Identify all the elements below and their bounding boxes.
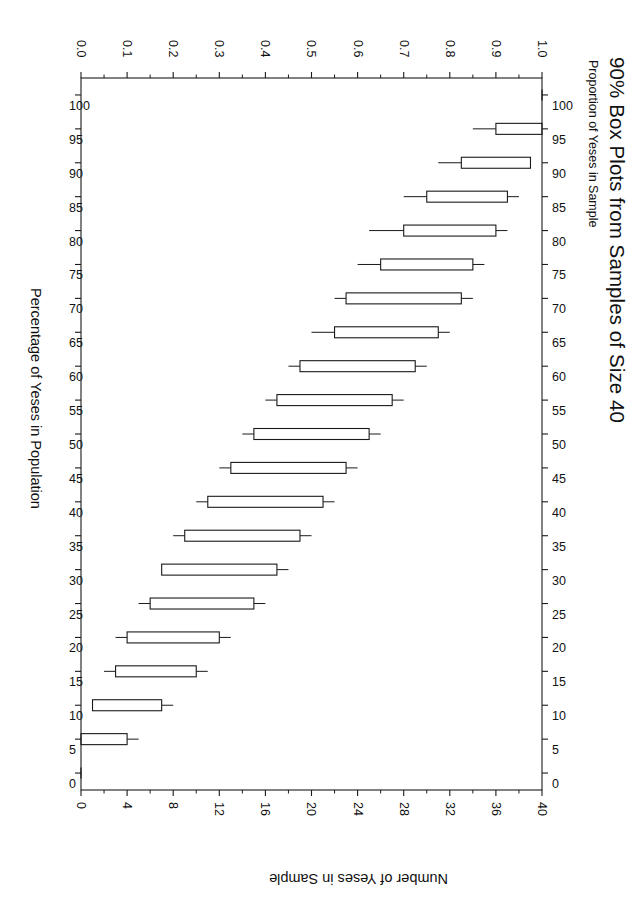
boxplot-20 [116, 632, 231, 643]
box [93, 700, 162, 711]
boxplot-15 [104, 666, 208, 677]
left-tick-label-0.9: 0.9 [489, 40, 502, 57]
boxplot-40 [196, 496, 334, 507]
left-tick-label-0.0: 0.0 [75, 40, 88, 57]
boxplot-90 [438, 157, 530, 168]
boxplot-85 [404, 191, 519, 202]
box [300, 361, 415, 372]
box [461, 157, 530, 168]
top-tick-label-95: 95 [552, 134, 566, 147]
boxplot-95 [473, 123, 542, 134]
top-tick-label-20: 20 [552, 642, 566, 655]
boxplot-65 [312, 327, 450, 338]
boxplot-80 [369, 225, 507, 236]
top-tick-label-35: 35 [552, 541, 566, 554]
box [127, 632, 219, 643]
boxplot-30 [162, 564, 289, 575]
box [381, 259, 473, 270]
right-tick-label-16: 16 [259, 802, 272, 816]
right-tick-label-8: 8 [167, 802, 180, 809]
bottom-tick-label-35: 35 [69, 541, 83, 554]
bottom-tick-label-95: 95 [69, 134, 83, 147]
boxplot-45 [219, 462, 357, 473]
bottom-tick-label-30: 30 [69, 575, 83, 588]
top-tick-label-55: 55 [552, 405, 566, 418]
right-tick-label-0: 0 [75, 802, 88, 809]
bottom-tick-label-45: 45 [69, 473, 83, 486]
boxplot-25 [139, 598, 266, 609]
plot-area [0, 0, 643, 914]
box [427, 191, 508, 202]
rotated-figure-wrapper: 90% Box Plots from Samples of Size 40 Pr… [0, 0, 643, 914]
bottom-tick-label-75: 75 [69, 269, 83, 282]
left-tick-label-0.1: 0.1 [121, 40, 134, 57]
box [496, 123, 542, 134]
right-tick-label-4: 4 [121, 802, 134, 809]
top-tick-label-5: 5 [552, 744, 559, 757]
boxplot-5 [81, 734, 139, 745]
box [208, 496, 323, 507]
box [254, 429, 369, 440]
bottom-tick-label-10: 10 [69, 710, 83, 723]
top-tick-label-0: 0 [552, 778, 559, 791]
left-tick-label-0.5: 0.5 [305, 40, 318, 57]
boxplot-70 [335, 293, 473, 304]
top-tick-label-30: 30 [552, 575, 566, 588]
boxplot-10 [93, 700, 174, 711]
top-tick-label-50: 50 [552, 439, 566, 452]
box [150, 598, 254, 609]
plot-frame [81, 78, 542, 790]
bottom-tick-label-85: 85 [69, 202, 83, 215]
right-tick-label-36: 36 [489, 802, 502, 816]
top-tick-label-45: 45 [552, 473, 566, 486]
top-tick-label-40: 40 [552, 507, 566, 520]
right-tick-label-20: 20 [305, 802, 318, 816]
bottom-tick-label-40: 40 [69, 507, 83, 520]
boxplot-50 [242, 429, 380, 440]
boxplot-35 [173, 530, 311, 541]
box [81, 734, 127, 745]
bottom-tick-label-65: 65 [69, 337, 83, 350]
bottom-tick-label-25: 25 [69, 609, 83, 622]
box [346, 293, 461, 304]
top-tick-label-75: 75 [552, 269, 566, 282]
right-tick-label-24: 24 [351, 802, 364, 816]
right-tick-label-28: 28 [397, 802, 410, 816]
box [185, 530, 300, 541]
bottom-tick-label-100: 100 [69, 100, 90, 113]
bottom-tick-label-50: 50 [69, 439, 83, 452]
right-tick-label-32: 32 [443, 802, 456, 816]
bottom-tick-label-55: 55 [69, 405, 83, 418]
box [116, 666, 197, 677]
bottom-tick-label-90: 90 [69, 168, 83, 181]
left-tick-label-0.3: 0.3 [213, 40, 226, 57]
left-tick-label-0.6: 0.6 [351, 40, 364, 57]
bottom-tick-label-5: 5 [69, 744, 76, 757]
left-tick-label-0.2: 0.2 [167, 40, 180, 57]
right-tick-label-12: 12 [213, 802, 226, 816]
right-tick-label-40: 40 [536, 802, 549, 816]
top-tick-label-100: 100 [552, 100, 573, 113]
boxplot-75 [358, 259, 485, 270]
boxplot-60 [288, 361, 426, 372]
left-tick-label-0.7: 0.7 [397, 40, 410, 57]
bottom-tick-label-15: 15 [69, 676, 83, 689]
top-tick-label-70: 70 [552, 303, 566, 316]
box [277, 395, 392, 406]
bottom-tick-label-70: 70 [69, 303, 83, 316]
box [404, 225, 496, 236]
top-tick-label-15: 15 [552, 676, 566, 689]
top-tick-label-60: 60 [552, 371, 566, 384]
top-tick-label-85: 85 [552, 202, 566, 215]
top-tick-label-65: 65 [552, 337, 566, 350]
box [231, 462, 346, 473]
bottom-tick-label-20: 20 [69, 642, 83, 655]
top-tick-label-80: 80 [552, 236, 566, 249]
bottom-tick-label-0: 0 [69, 778, 76, 791]
bottom-tick-label-80: 80 [69, 236, 83, 249]
box [162, 564, 277, 575]
boxplot-55 [265, 395, 403, 406]
left-tick-label-1.0: 1.0 [536, 40, 549, 57]
bottom-tick-label-60: 60 [69, 371, 83, 384]
box [335, 327, 439, 338]
